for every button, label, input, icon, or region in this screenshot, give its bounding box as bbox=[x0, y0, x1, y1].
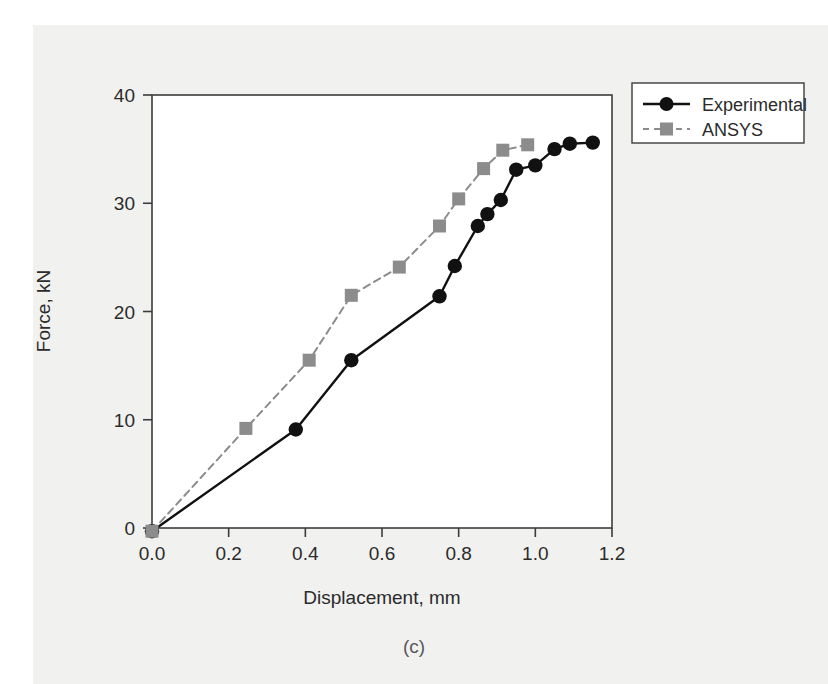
legend-label: ANSYS bbox=[702, 120, 763, 140]
x-axis-label: Displacement, mm bbox=[303, 587, 460, 608]
y-tick-label: 0 bbox=[124, 518, 135, 539]
data-point-marker bbox=[494, 193, 508, 207]
data-point-marker bbox=[239, 422, 252, 435]
y-axis-tick-labels: 010203040 bbox=[114, 85, 135, 539]
x-axis-ticks bbox=[152, 528, 612, 537]
y-axis-ticks bbox=[143, 95, 152, 528]
data-point-marker bbox=[480, 207, 494, 221]
data-point-marker bbox=[509, 163, 523, 177]
chart-figure: 0.00.20.40.60.81.01.2 010203040 Displace… bbox=[0, 0, 828, 684]
legend-label: Experimental bbox=[702, 95, 807, 115]
data-point-marker bbox=[471, 219, 485, 233]
y-tick-label: 10 bbox=[114, 410, 135, 431]
y-tick-label: 40 bbox=[114, 85, 135, 106]
data-point-marker bbox=[477, 162, 490, 175]
data-point-marker bbox=[586, 135, 600, 149]
x-tick-label: 1.2 bbox=[599, 543, 625, 564]
data-point-marker bbox=[303, 354, 316, 367]
x-tick-label: 0.0 bbox=[139, 543, 165, 564]
data-point-marker bbox=[563, 137, 577, 151]
data-point-marker bbox=[521, 138, 534, 151]
data-point-marker bbox=[547, 142, 561, 156]
x-tick-label: 1.0 bbox=[522, 543, 548, 564]
chart-legend: ExperimentalANSYS bbox=[632, 83, 807, 143]
data-point-marker bbox=[393, 261, 406, 274]
figure-caption: (c) bbox=[0, 636, 828, 658]
y-tick-label: 20 bbox=[114, 302, 135, 323]
x-tick-label: 0.2 bbox=[215, 543, 241, 564]
data-point-marker bbox=[433, 220, 446, 233]
data-point-marker bbox=[345, 289, 358, 302]
data-point-marker bbox=[432, 289, 446, 303]
data-point-marker bbox=[496, 144, 509, 157]
data-point-marker bbox=[528, 158, 542, 172]
data-point-marker bbox=[344, 353, 358, 367]
data-point-marker bbox=[448, 259, 462, 273]
data-point-marker bbox=[289, 422, 303, 436]
force-displacement-chart: 0.00.20.40.60.81.01.2 010203040 Displace… bbox=[0, 0, 828, 684]
data-point-marker bbox=[146, 525, 159, 538]
x-axis-tick-labels: 0.00.20.40.60.81.01.2 bbox=[139, 543, 625, 564]
y-tick-label: 30 bbox=[114, 193, 135, 214]
data-point-marker bbox=[452, 192, 465, 205]
y-axis-label: Force, kN bbox=[33, 270, 54, 352]
x-tick-label: 0.8 bbox=[445, 543, 471, 564]
legend-marker bbox=[660, 123, 673, 136]
x-tick-label: 0.4 bbox=[292, 543, 319, 564]
legend-marker bbox=[660, 97, 674, 111]
x-tick-label: 0.6 bbox=[369, 543, 395, 564]
figure-page: 0.00.20.40.60.81.01.2 010203040 Displace… bbox=[0, 0, 828, 684]
